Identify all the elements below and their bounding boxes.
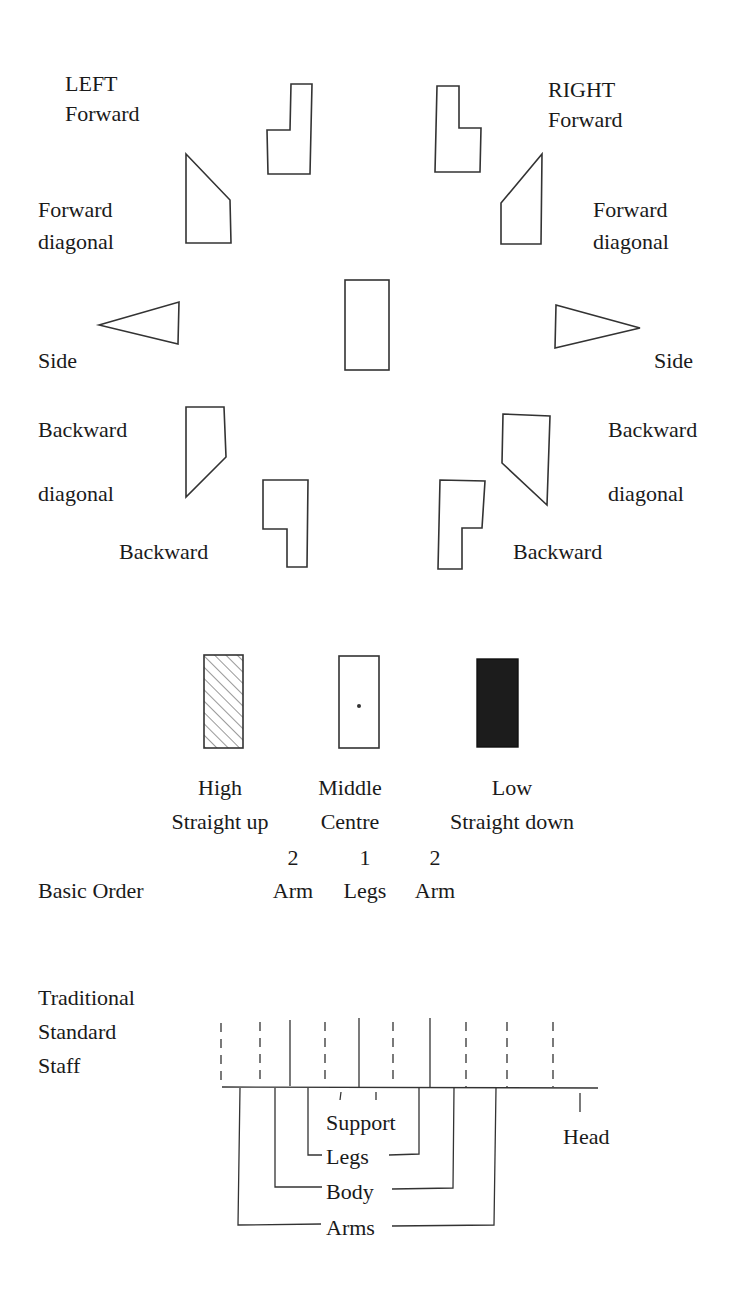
- left-forward-symbol: [267, 84, 312, 174]
- support-tick-left: [340, 1092, 341, 1100]
- level-low-symbol: [477, 659, 518, 747]
- left-backward-diagonal-symbol: [186, 407, 226, 497]
- left-backward-symbol: [263, 480, 308, 567]
- level-high-symbol: [204, 655, 243, 748]
- right-forward-symbol: [435, 86, 481, 172]
- arms-bracket-right: [392, 1088, 496, 1226]
- right-side-symbol: [555, 305, 640, 348]
- body-bracket-right: [392, 1088, 454, 1189]
- right-backward-symbol: [438, 480, 485, 569]
- body-bracket-left: [275, 1088, 322, 1187]
- center-place-symbol: [345, 280, 389, 370]
- notation-drawing: [0, 0, 742, 1291]
- level-middle-symbol: [339, 656, 379, 748]
- right-backward-diagonal-symbol: [502, 414, 550, 505]
- left-side-symbol: [99, 302, 179, 344]
- left-forward-diagonal-symbol: [186, 154, 231, 243]
- staff-columns: [221, 1018, 553, 1088]
- legs-bracket-right: [389, 1088, 419, 1155]
- legs-bracket-left: [308, 1088, 322, 1155]
- staff-baseline: [222, 1087, 598, 1088]
- level-middle-dot: [357, 704, 361, 708]
- right-forward-diagonal-symbol: [501, 154, 542, 244]
